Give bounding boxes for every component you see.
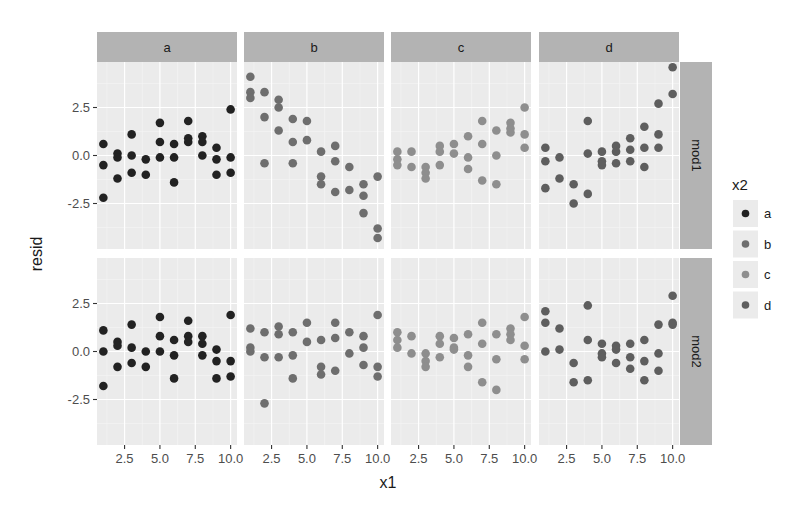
legend-key-dot xyxy=(742,210,750,218)
data-point xyxy=(373,234,382,243)
legend-item-c: c xyxy=(733,261,771,288)
data-point xyxy=(317,363,326,372)
strip-row-mod1: mod1 xyxy=(680,62,712,249)
y-tick-label: 2.5 xyxy=(72,100,90,115)
data-point xyxy=(113,153,122,162)
data-point xyxy=(274,330,283,339)
x-tick-label: 10.0 xyxy=(218,451,243,466)
data-point xyxy=(583,149,592,158)
data-point xyxy=(478,117,487,126)
data-point xyxy=(612,359,621,368)
data-point xyxy=(640,163,649,172)
data-point xyxy=(654,144,663,153)
plot-panels xyxy=(97,62,679,445)
data-point xyxy=(393,343,402,352)
x-tick-label: 2.5 xyxy=(116,451,134,466)
data-point xyxy=(464,165,473,174)
strip-label: mod2 xyxy=(689,335,704,368)
data-point xyxy=(170,351,179,360)
x-tick-label: 7.5 xyxy=(480,451,498,466)
data-point xyxy=(520,341,529,350)
legend-label: d xyxy=(764,298,771,313)
strip-label: a xyxy=(163,40,171,55)
data-point xyxy=(127,320,136,329)
data-point xyxy=(450,334,459,343)
panel-mod1-b xyxy=(244,62,384,249)
data-point xyxy=(226,311,235,320)
data-point xyxy=(626,134,635,143)
data-point xyxy=(331,188,340,197)
data-point xyxy=(640,357,649,366)
x-tick-label: 7.5 xyxy=(628,451,646,466)
data-point xyxy=(492,330,501,339)
data-point xyxy=(184,117,193,126)
data-point xyxy=(506,336,515,345)
data-point xyxy=(435,353,444,362)
data-point xyxy=(506,128,515,137)
data-point xyxy=(359,192,368,201)
data-point xyxy=(626,364,635,373)
x-tick-label: 5.0 xyxy=(445,451,463,466)
data-point xyxy=(541,184,550,193)
strip-label: d xyxy=(605,40,612,55)
data-point xyxy=(184,138,193,147)
data-point xyxy=(492,355,501,364)
legend-item-d: d xyxy=(733,292,771,319)
data-point xyxy=(654,130,663,139)
data-point xyxy=(612,147,621,156)
data-point xyxy=(555,345,564,354)
data-point xyxy=(345,163,354,172)
panel-mod1-c xyxy=(391,62,531,249)
data-point xyxy=(331,318,340,327)
strip-col-b: b xyxy=(244,32,384,62)
data-point xyxy=(317,180,326,189)
data-point xyxy=(421,349,430,358)
data-point xyxy=(450,345,459,354)
data-point xyxy=(113,341,122,350)
data-point xyxy=(317,370,326,379)
data-point xyxy=(212,170,221,179)
data-point xyxy=(555,174,564,183)
data-point xyxy=(331,142,340,151)
data-point xyxy=(345,186,354,195)
x-tick-label: 5.0 xyxy=(593,451,611,466)
data-point xyxy=(654,349,663,358)
data-point xyxy=(288,351,297,360)
data-point xyxy=(407,332,416,341)
data-point xyxy=(288,328,297,337)
data-point xyxy=(198,138,207,147)
strip-col-a: a xyxy=(97,32,237,62)
data-point xyxy=(541,318,550,327)
data-point xyxy=(359,209,368,218)
data-point xyxy=(583,336,592,345)
data-point xyxy=(478,318,487,327)
data-point xyxy=(246,324,255,333)
data-point xyxy=(184,316,193,325)
data-point xyxy=(170,374,179,383)
data-point xyxy=(435,332,444,341)
data-point xyxy=(212,144,221,153)
data-point xyxy=(435,147,444,156)
data-point xyxy=(246,94,255,103)
data-point xyxy=(373,311,382,320)
data-point xyxy=(156,347,165,356)
data-point xyxy=(640,376,649,385)
data-point xyxy=(520,313,529,322)
x-tick-label: 5.0 xyxy=(151,451,169,466)
data-point xyxy=(421,363,430,372)
data-point xyxy=(373,363,382,372)
legend-label: c xyxy=(764,267,771,282)
data-point xyxy=(569,180,578,189)
data-point xyxy=(520,144,529,153)
data-point xyxy=(260,353,269,362)
data-point xyxy=(141,170,150,179)
data-point xyxy=(541,157,550,166)
data-point xyxy=(288,115,297,124)
y-tick-label: -2.5 xyxy=(68,392,90,407)
data-point xyxy=(555,153,564,162)
data-point xyxy=(583,190,592,199)
data-point xyxy=(359,332,368,341)
y-tick-label: -2.5 xyxy=(68,196,90,211)
data-point xyxy=(626,157,635,166)
x-tick-label: 5.0 xyxy=(298,451,316,466)
